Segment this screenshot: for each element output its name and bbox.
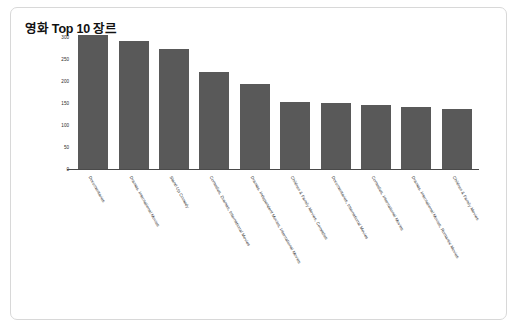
y-axis-tick-label: 50 (64, 145, 69, 150)
bar (361, 105, 391, 169)
y-axis-tick-label: 100 (61, 123, 69, 128)
bar (321, 103, 351, 169)
x-axis-tick-label: Comedies, Dramas, International Movies (209, 175, 252, 247)
y-axis-tick-label: 250 (61, 57, 69, 62)
x-axis-tick-label: Dramas, International Movies (128, 175, 160, 228)
bar (119, 41, 149, 169)
x-axis-tick-label: Documentaries, International Movies (330, 175, 369, 240)
bar (159, 49, 189, 169)
y-axis-tick-label: 200 (61, 79, 69, 84)
x-axis-tick-label: Documentaries (88, 175, 107, 203)
x-axis-tick-label: Comedies, International Movies (371, 175, 405, 231)
x-axis-labels: DocumentariesDramas, International Movie… (73, 171, 477, 311)
x-axis-tick-label: Children & Family Movies (451, 175, 480, 221)
bar (401, 107, 431, 169)
x-axis-tick-label: Stand-Up Comedy (169, 175, 191, 209)
chart-card: 영화 Top 10 장르 050100150200250300 Document… (10, 7, 507, 320)
plot-area (73, 37, 477, 169)
bar (240, 84, 270, 169)
y-axis: 050100150200250300 (51, 37, 69, 169)
bar (78, 35, 108, 169)
x-axis-tick-label: Dramas, Independent Movies, Internationa… (249, 175, 302, 264)
bar (442, 109, 472, 169)
y-axis-tick-label: 300 (61, 35, 69, 40)
x-axis-tick-label: Dramas, International Movies, Romantic M… (411, 175, 461, 259)
y-axis-tick-label: 150 (61, 101, 69, 106)
x-axis-tick-label: Children & Family Movies, Comedies (290, 175, 329, 241)
bar (280, 102, 310, 169)
bar (199, 72, 229, 169)
